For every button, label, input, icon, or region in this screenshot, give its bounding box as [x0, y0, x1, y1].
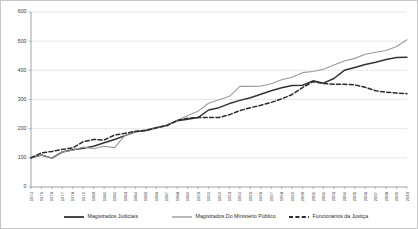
- x-tick-label: 2003: [331, 191, 336, 201]
- x-tick-label: 2004: [342, 191, 347, 201]
- x-tick-label: 2007: [373, 191, 378, 201]
- x-tick-label: 1991: [206, 191, 211, 201]
- plot-area: 0100200300400500600 19741975197619771978…: [1, 1, 418, 229]
- x-tick-label: 1995: [248, 191, 253, 201]
- x-tick-label: 1998: [279, 191, 284, 201]
- series-line-2: [31, 82, 407, 158]
- x-tick-label: 1997: [269, 191, 274, 201]
- y-tick-label: 0: [24, 183, 27, 189]
- x-axis-tick-labels: 1974197519761977197819791980198119821983…: [29, 191, 410, 201]
- legend-label-2: Funcionários da Justiça: [313, 213, 369, 219]
- x-tick-label: 1982: [112, 191, 117, 201]
- x-tick-label: 1989: [185, 191, 190, 201]
- x-tick-label: 1988: [175, 191, 180, 201]
- x-tick-label: 1980: [91, 191, 96, 201]
- x-tick-label: 1985: [143, 191, 148, 201]
- data-series: [31, 40, 407, 158]
- y-tick-label: 400: [18, 67, 27, 73]
- x-tick-label: 1993: [227, 191, 232, 201]
- x-tick-label: 1987: [164, 191, 169, 201]
- y-tick-label: 100: [18, 154, 27, 160]
- chart-container: 0100200300400500600 19741975197619771978…: [0, 0, 418, 229]
- x-tick-label: 1996: [258, 191, 263, 201]
- x-tick-label: 1981: [102, 191, 107, 201]
- legend-label-0: Magistrados Judiciais: [88, 213, 139, 219]
- x-tick-label: 1976: [49, 191, 54, 201]
- x-tick-label: 1975: [39, 191, 44, 201]
- y-tick-label: 500: [18, 38, 27, 44]
- x-tick-label: 1979: [81, 191, 86, 201]
- x-tick-label: 1983: [123, 191, 128, 201]
- x-tick-label: 2009: [394, 191, 399, 201]
- x-tick-label: 2008: [384, 191, 389, 201]
- x-tick-label: 1978: [70, 191, 75, 201]
- legend-label-1: Magistrados Do Ministério Público: [196, 213, 276, 219]
- y-tick-label: 300: [18, 96, 27, 102]
- x-tick-label: 1992: [217, 191, 222, 201]
- x-tick-label: 2005: [352, 191, 357, 201]
- series-line-0: [31, 57, 407, 158]
- x-tick-label: 1984: [133, 191, 138, 201]
- x-tick-label: 2010: [405, 191, 410, 201]
- chart-svg: 0100200300400500600 19741975197619771978…: [1, 1, 418, 229]
- y-tick-label: 200: [18, 125, 27, 131]
- x-tick-label: 2000: [300, 191, 305, 201]
- y-axis-tick-labels: 0100200300400500600: [18, 8, 27, 189]
- x-tick-label: 1974: [29, 191, 34, 201]
- x-tick-label: 2002: [321, 191, 326, 201]
- x-tick-label: 1986: [154, 191, 159, 201]
- x-tick-label: 1994: [237, 191, 242, 201]
- x-tick-label: 2006: [363, 191, 368, 201]
- x-tick-label: 1977: [60, 191, 65, 201]
- x-tick-label: 2001: [311, 191, 316, 201]
- chart-legend: Magistrados JudiciaisMagistrados Do Mini…: [64, 213, 368, 219]
- y-tick-label: 600: [18, 8, 27, 14]
- x-tick-label: 1999: [290, 191, 295, 201]
- x-tick-label: 1990: [196, 191, 201, 201]
